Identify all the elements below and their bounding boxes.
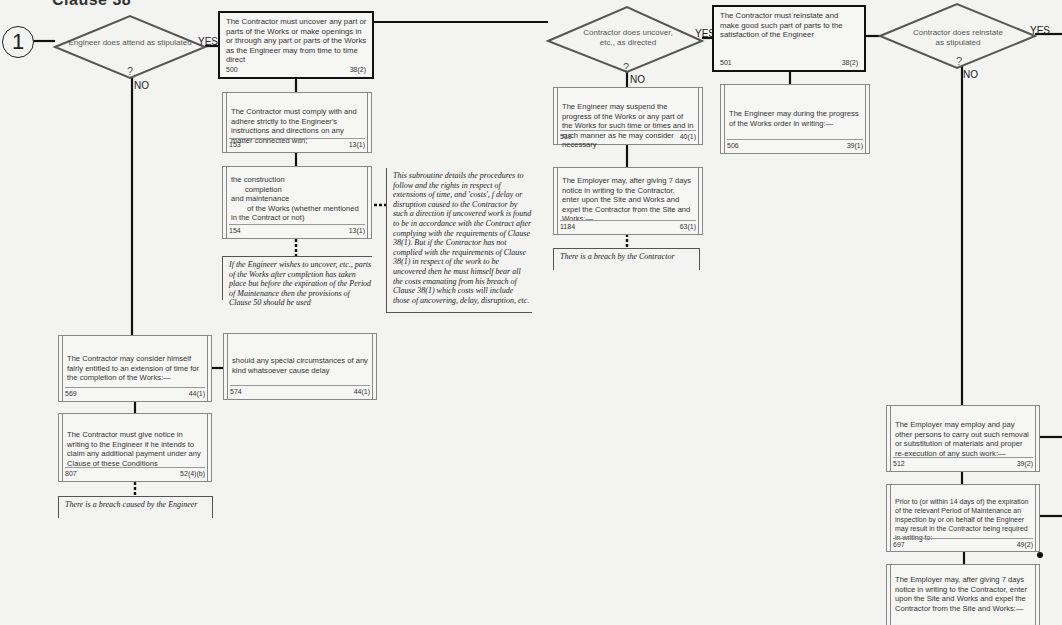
process-box-1184-repeat[interactable]: The Employer may, after giving 7 days no…	[886, 564, 1040, 624]
process-box-1184[interactable]: The Employer may, after giving 7 days no…	[553, 167, 703, 235]
decision-no-label: NO	[134, 80, 149, 91]
process-box-501[interactable]: The Contractor must reinstate and make g…	[712, 5, 866, 72]
process-box-807[interactable]: The Contractor must give notice in writi…	[58, 413, 212, 482]
decision-text-contractor-uncover: Contractor does uncover, etc., as direct…	[578, 28, 678, 48]
decision-text-engineer-attend: Engineer does attend as stipulated	[62, 38, 198, 48]
decision-no-label: NO	[630, 74, 645, 85]
decision-text-contractor-reinstate: Contractor does reinstate as stipulated	[912, 28, 1004, 48]
decision-question-mark: ?	[956, 55, 962, 67]
process-box-697[interactable]: Prior to (or within 14 days of) the expi…	[886, 484, 1040, 552]
decision-question-mark: ?	[623, 61, 629, 73]
decision-question-mark: ?	[127, 65, 133, 77]
decision-no-label: NO	[963, 69, 978, 80]
note-subroutine: This subroutine details the procedures t…	[386, 168, 532, 313]
note-breach-by-engineer: There is a breach caused by the Engineer	[58, 496, 213, 518]
start-connector-node[interactable]: 1	[2, 26, 34, 58]
clause-heading: Clause 38	[52, 0, 131, 9]
process-box-574[interactable]: should any special circumstances of any …	[223, 333, 377, 400]
note-breach-by-contractor: There is a breach by the Contractor	[553, 248, 700, 270]
process-box-154[interactable]: the construction completion and maintena…	[222, 166, 372, 239]
note-after-completion: If the Engineer wishes to uncover, etc.,…	[222, 256, 372, 300]
process-box-519[interactable]: The Engineer may suspend the progress of…	[553, 87, 703, 145]
decision-yes-label: YES	[1030, 25, 1050, 36]
process-box-512[interactable]: The Employer may employ and pay other pe…	[886, 405, 1040, 472]
process-box-506[interactable]: The Engineer may during the progress of …	[720, 84, 870, 154]
decision-yes-label: YES	[198, 36, 218, 47]
process-box-500[interactable]: The Contractor must uncover any part or …	[218, 11, 374, 79]
process-box-153[interactable]: The Contractor must comply with and adhe…	[222, 92, 372, 153]
process-box-569[interactable]: The Contractor may consider himself fair…	[58, 335, 212, 402]
